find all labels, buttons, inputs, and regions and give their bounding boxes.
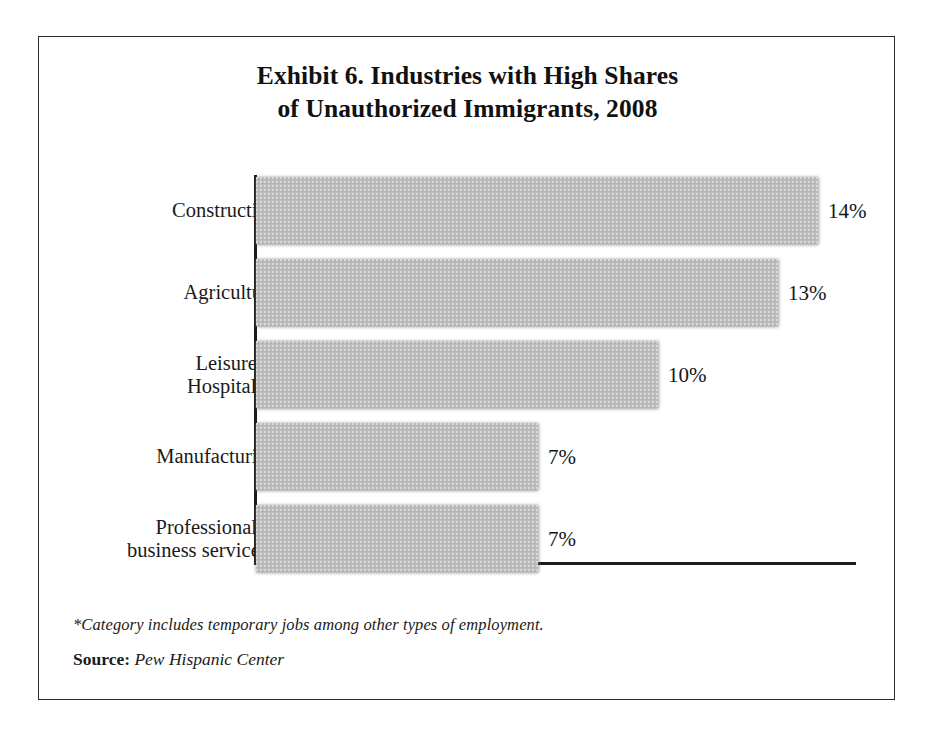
bar-value-label: 13% bbox=[788, 280, 827, 305]
bar-value-label: 14% bbox=[828, 198, 867, 223]
bar-row: Professional & business services* 7% bbox=[39, 505, 896, 572]
figure-frame: Exhibit 6. Industries with High Shares o… bbox=[38, 36, 895, 700]
bar bbox=[256, 177, 818, 244]
source-value: Pew Hispanic Center bbox=[134, 649, 284, 669]
bar-row: Leisure & Hospitality 10% bbox=[39, 341, 896, 408]
bar-value-label: 7% bbox=[548, 526, 576, 551]
source-line: Source: Pew Hispanic Center bbox=[73, 649, 284, 670]
bar bbox=[256, 423, 538, 490]
bar bbox=[256, 505, 538, 572]
bar-row: Construction 14% bbox=[39, 177, 896, 244]
bar-row: Manufacturing 7% bbox=[39, 423, 896, 490]
footnote: *Category includes temporary jobs among … bbox=[73, 615, 544, 635]
bar-value-label: 10% bbox=[668, 362, 707, 387]
source-label: Source: bbox=[73, 649, 130, 669]
bar-value-label: 7% bbox=[548, 444, 576, 469]
bar bbox=[256, 259, 778, 326]
bar-row: Agriculture 13% bbox=[39, 259, 896, 326]
plot-area: Construction 14% Agriculture 13% Leisure… bbox=[39, 37, 896, 701]
bar bbox=[256, 341, 658, 408]
